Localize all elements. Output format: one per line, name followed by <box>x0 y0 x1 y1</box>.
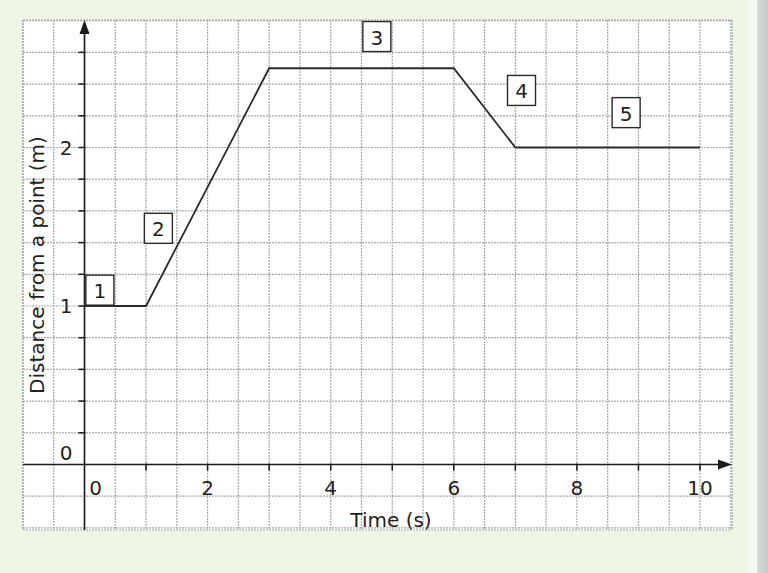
y-tick-label: 1 <box>60 294 73 318</box>
segment-label-3: 3 <box>363 22 391 52</box>
segment-label-number: 3 <box>370 26 383 50</box>
distance-time-chart: 0246810012 12345 Time (s) Distance from … <box>0 0 768 573</box>
x-tick-label: 0 <box>89 476 102 500</box>
x-tick-label: 10 <box>687 476 712 500</box>
y-tick-label: 2 <box>60 136 73 160</box>
segment-label-number: 1 <box>94 279 107 303</box>
x-axis-title: Time (s) <box>349 508 431 532</box>
segment-label-1: 1 <box>86 275 114 305</box>
y-tick-label: 0 <box>60 441 73 465</box>
segment-label-4: 4 <box>508 75 536 105</box>
segment-label-number: 4 <box>515 79 528 103</box>
x-tick-label: 8 <box>571 476 584 500</box>
segment-label-number: 5 <box>620 102 633 126</box>
y-axis-title: Distance from a point (m) <box>25 136 49 394</box>
segment-label-5: 5 <box>612 98 640 128</box>
x-tick-label: 6 <box>447 476 460 500</box>
segment-label-2: 2 <box>144 213 172 243</box>
segment-label-number: 2 <box>152 217 165 241</box>
x-tick-label: 2 <box>201 476 214 500</box>
grid-background <box>23 20 732 530</box>
grid-area <box>23 20 732 530</box>
x-tick-label: 4 <box>324 476 337 500</box>
